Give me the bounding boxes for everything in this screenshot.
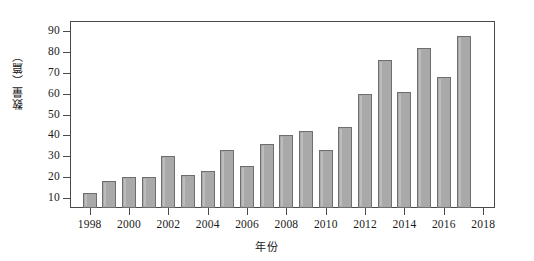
- bar: [220, 150, 234, 208]
- y-axis-tick-label-wrap: 20: [30, 171, 60, 183]
- y-axis-tick-label-wrap: 90: [30, 25, 60, 37]
- y-axis-tick-label: 70: [34, 67, 60, 79]
- x-axis-tick: [208, 208, 209, 215]
- bar: [240, 166, 254, 208]
- bar: [102, 181, 116, 208]
- bar: [378, 60, 392, 208]
- bar: [417, 48, 431, 208]
- bar: [142, 177, 156, 208]
- x-axis-tick: [90, 208, 91, 215]
- y-axis-tick: [63, 73, 71, 74]
- y-axis-tick-label-wrap: 50: [30, 109, 60, 121]
- x-axis-tick-label: 2018: [460, 219, 506, 231]
- y-axis-tick: [63, 31, 71, 32]
- x-axis-tick: [365, 208, 366, 215]
- x-axis-tick: [326, 208, 327, 215]
- x-axis-tick: [129, 208, 130, 215]
- y-axis-tick: [63, 177, 71, 178]
- y-axis-tick: [63, 198, 71, 199]
- y-axis-tick-label: 90: [34, 25, 60, 37]
- y-axis-tick-label-wrap: 60: [30, 88, 60, 100]
- bar: [201, 171, 215, 208]
- y-axis-tick: [63, 135, 71, 136]
- x-axis-tick: [483, 208, 484, 215]
- y-axis-tick-label: 30: [34, 150, 60, 162]
- bar: [358, 94, 372, 208]
- bar: [83, 193, 97, 208]
- bar: [161, 156, 175, 208]
- bar: [299, 131, 313, 208]
- y-axis-tick-label: 10: [34, 192, 60, 204]
- x-axis-tick: [168, 208, 169, 215]
- bar-chart: 数量（篇） 年份 102030405060708090 199820002002…: [0, 0, 534, 261]
- x-axis-tick: [286, 208, 287, 215]
- y-axis-tick-label-wrap: 40: [30, 129, 60, 141]
- y-axis-tick-label: 80: [34, 46, 60, 58]
- y-axis-tick: [63, 156, 71, 157]
- x-axis-tick: [444, 208, 445, 215]
- y-axis-tick-label: 60: [34, 88, 60, 100]
- bar: [457, 36, 471, 208]
- y-axis-tick-label: 50: [34, 109, 60, 121]
- x-axis-tick: [247, 208, 248, 215]
- y-axis-tick-label-wrap: 30: [30, 150, 60, 162]
- y-axis-title: 数量（篇）: [10, 50, 26, 110]
- bar: [319, 150, 333, 208]
- x-axis-tick: [404, 208, 405, 215]
- bar: [397, 92, 411, 208]
- bar: [338, 127, 352, 208]
- bar: [279, 135, 293, 208]
- bar: [260, 144, 274, 208]
- y-axis-tick-label-wrap: 10: [30, 192, 60, 204]
- bar: [122, 177, 136, 208]
- bar: [437, 77, 451, 208]
- y-axis-tick: [63, 94, 71, 95]
- y-axis-tick-label: 40: [34, 129, 60, 141]
- y-axis-tick-label-wrap: 80: [30, 46, 60, 58]
- y-axis-tick: [63, 115, 71, 116]
- y-axis-tick-label: 20: [34, 171, 60, 183]
- x-axis-title: 年份: [0, 238, 534, 254]
- y-axis-tick-label-wrap: 70: [30, 67, 60, 79]
- y-axis-tick: [63, 52, 71, 53]
- bar: [181, 175, 195, 208]
